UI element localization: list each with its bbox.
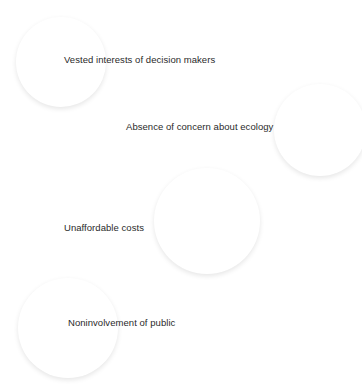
node-label-noninvolvement-of-public: Noninvolvement of public <box>68 317 175 328</box>
diagram-canvas: Vested interests of decision makers Abse… <box>0 0 362 384</box>
node-label-vested-interests: Vested interests of decision makers <box>64 54 215 65</box>
node-label-unaffordable-costs: Unaffordable costs <box>64 222 144 233</box>
node-label-absence-of-concern: Absence of concern about ecology <box>126 121 273 132</box>
sphere-shape-unaffordable-costs <box>158 172 256 270</box>
diagram-node-absence-of-concern[interactable] <box>278 88 362 172</box>
sphere-shape-noninvolvement-of-public <box>22 282 114 374</box>
diagram-node-noninvolvement-of-public[interactable] <box>22 282 114 374</box>
sphere-shape-absence-of-concern <box>278 88 362 172</box>
diagram-node-unaffordable-costs[interactable] <box>158 172 256 270</box>
